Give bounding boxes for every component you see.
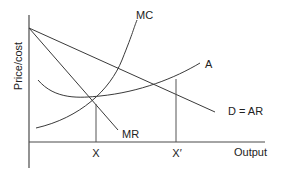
mr-label: MR [122, 128, 139, 140]
y-axis-label: Price/cost [12, 42, 24, 90]
mc-label: MC [136, 9, 153, 21]
x-marker-label: X [92, 147, 100, 159]
ac-label: A [205, 58, 213, 70]
marginal-revenue-line [29, 28, 118, 130]
x-prime-marker-label: X′ [172, 147, 181, 159]
marginal-cost-curve [36, 20, 137, 128]
x-axis-label: Output [234, 146, 267, 158]
cost-revenue-diagram: Price/cost Output MC A D = AR MR X X′ [0, 0, 284, 173]
demand-ar-label: D = AR [228, 105, 263, 117]
